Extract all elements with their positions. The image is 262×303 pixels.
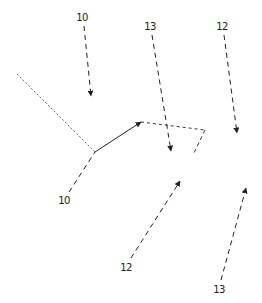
dashed-line-corner-down [193,130,205,155]
dashed-line-horizontal [141,122,205,130]
arrow-bottom-right [221,188,246,280]
dotted-line-left [17,74,95,152]
arrow-top-right [224,35,237,133]
label-top-middle: 13 [144,22,156,32]
dashed-line-bottom-left [69,152,95,192]
label-bottom-left: 10 [58,196,70,206]
label-bottom-right: 13 [213,285,225,295]
arrow-top-left [84,26,91,96]
diagram-canvas [0,0,262,303]
arrow-bottom-middle [131,181,180,258]
arrow-top-middle [152,35,171,151]
label-top-right: 12 [216,22,228,32]
solid-arrow [95,122,141,152]
label-top-left: 10 [76,13,88,23]
label-bottom-middle: 12 [120,263,132,273]
